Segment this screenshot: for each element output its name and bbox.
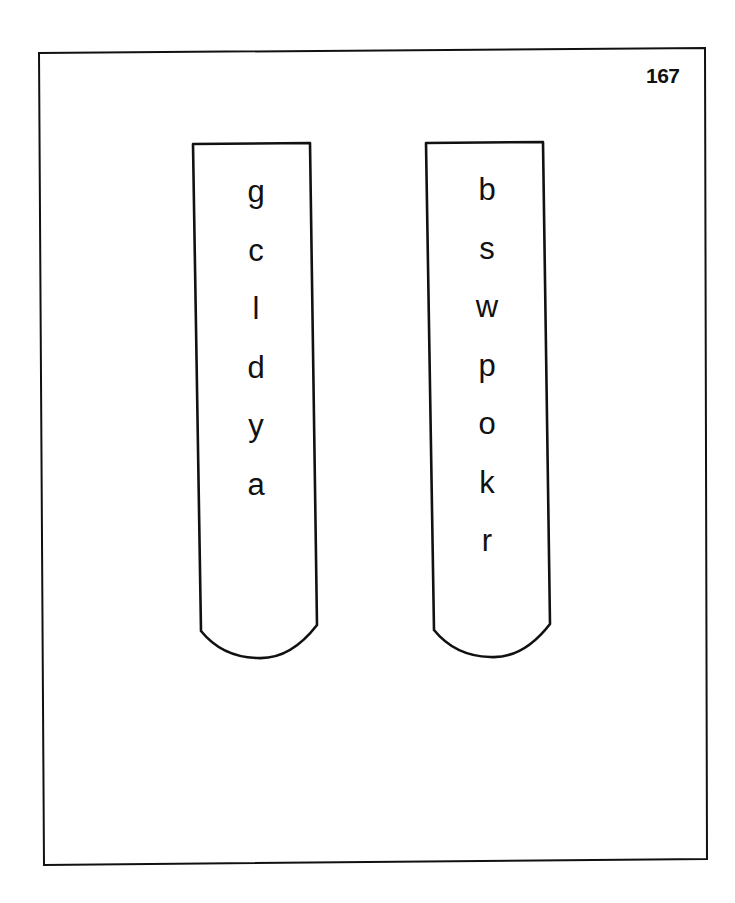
letter: k	[427, 454, 547, 513]
letter: c	[196, 222, 316, 281]
page-diagram	[0, 0, 735, 903]
letter: s	[427, 220, 547, 279]
letter: p	[427, 337, 547, 396]
letter: b	[427, 161, 547, 220]
page-number: 167	[646, 64, 680, 88]
outer-frame	[39, 48, 707, 865]
left-tube-letters: g c l d y a	[196, 163, 316, 514]
letter: a	[196, 456, 316, 515]
right-tube-letters: b s w p o k r	[427, 161, 547, 571]
letter: d	[196, 339, 316, 398]
letter: g	[196, 163, 316, 222]
letter: w	[427, 278, 547, 337]
letter: l	[196, 280, 316, 339]
letter: r	[427, 512, 547, 571]
letter: y	[196, 397, 316, 456]
letter: o	[427, 395, 547, 454]
